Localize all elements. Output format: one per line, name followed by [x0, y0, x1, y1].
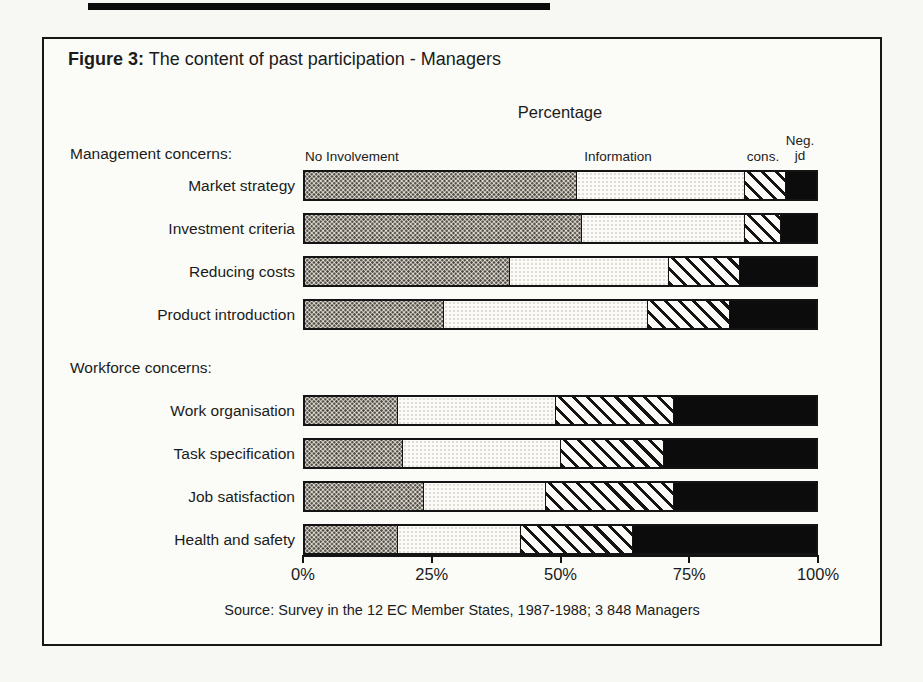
bar-segment-information	[402, 440, 560, 467]
bar-segment-no-involvement	[305, 172, 576, 199]
bar-segment-consultation	[647, 301, 729, 328]
stacked-bar	[303, 213, 818, 244]
bar-segment-information	[443, 301, 647, 328]
group-label: Management concerns:	[70, 145, 232, 163]
x-axis-tick	[431, 555, 433, 563]
bar-segment-no-involvement	[305, 483, 423, 510]
row-label: Reducing costs	[44, 263, 295, 281]
bar-segment-no-involvement	[305, 301, 443, 328]
x-axis-tick	[302, 555, 304, 563]
x-axis-tick-label: 50%	[526, 565, 596, 584]
x-axis-tick	[688, 555, 690, 563]
column-header-information: Information	[558, 149, 678, 164]
bar-segment-no-involvement	[305, 397, 397, 424]
group-label: Workforce concerns:	[70, 359, 212, 377]
row-label: Market strategy	[44, 177, 295, 195]
figure-title: Figure 3: The content of past participat…	[68, 49, 501, 70]
stacked-bar	[303, 299, 818, 330]
bar-segment-no-involvement	[305, 440, 402, 467]
stacked-bar	[303, 524, 818, 555]
x-axis-tick-label: 25%	[397, 565, 467, 584]
bar-segment-no-involvement	[305, 526, 397, 553]
bar-segment-consultation	[668, 258, 740, 285]
chart-row: Product introduction	[44, 299, 880, 330]
stacked-bar	[303, 395, 818, 426]
bar-segment-consultation	[744, 172, 785, 199]
chart-row: Work organisation	[44, 395, 880, 426]
x-axis-tick-label: 0%	[268, 565, 338, 584]
bar-segment-no-involvement	[305, 215, 581, 242]
bar-segment-consultation	[560, 440, 662, 467]
bar-segment-consultation	[545, 483, 673, 510]
figure-title-text: The content of past participation - Mana…	[149, 49, 501, 69]
figure-box: Figure 3: The content of past participat…	[42, 37, 882, 646]
scanned-page: Figure 3: The content of past participat…	[0, 0, 923, 682]
stacked-bar	[303, 170, 818, 201]
bar-segment-negotiation	[785, 172, 816, 199]
row-label: Product introduction	[44, 306, 295, 324]
row-label: Investment criteria	[44, 220, 295, 238]
chart-row: Health and safety	[44, 524, 880, 555]
bar-segment-information	[397, 397, 555, 424]
bar-segment-negotiation	[673, 397, 816, 424]
chart-row: Reducing costs	[44, 256, 880, 287]
bar-segment-negotiation	[632, 526, 816, 553]
row-label: Work organisation	[44, 402, 295, 420]
bar-segment-information	[581, 215, 745, 242]
bar-segment-consultation	[555, 397, 673, 424]
row-label: Task specification	[44, 445, 295, 463]
stacked-bar	[303, 256, 818, 287]
x-axis-tick	[817, 555, 819, 563]
bar-segment-consultation	[744, 215, 780, 242]
bar-segment-consultation	[520, 526, 632, 553]
bar-segment-negotiation	[663, 440, 816, 467]
bar-segment-no-involvement	[305, 258, 509, 285]
x-axis-tick-label: 75%	[654, 565, 724, 584]
column-header-negotiation: Neg. jd	[770, 134, 830, 163]
x-axis-tick-label: 100%	[783, 565, 853, 584]
figure-number-label: Figure 3:	[68, 49, 144, 69]
chart-row: Market strategy	[44, 170, 880, 201]
source-note: Source: Survey in the 12 EC Member State…	[44, 602, 880, 618]
chart-row: Task specification	[44, 438, 880, 469]
bar-segment-information	[576, 172, 745, 199]
bar-segment-information	[423, 483, 546, 510]
column-header-negotiation-line1: Neg.	[770, 134, 830, 149]
axis-title: Percentage	[460, 103, 660, 122]
column-header-no-involvement: No Involvement	[305, 149, 399, 164]
stacked-bar	[303, 438, 818, 469]
chart-row: Investment criteria	[44, 213, 880, 244]
bar-segment-negotiation	[780, 215, 816, 242]
row-label: Job satisfaction	[44, 488, 295, 506]
scan-artifact-bar	[88, 3, 550, 10]
bar-segment-information	[509, 258, 667, 285]
column-header-negotiation-line2: jd	[770, 149, 830, 164]
bar-segment-negotiation	[673, 483, 816, 510]
x-axis-tick	[560, 555, 562, 563]
bar-segment-negotiation	[739, 258, 816, 285]
bar-segment-negotiation	[729, 301, 816, 328]
chart-row: Job satisfaction	[44, 481, 880, 512]
bar-segment-information	[397, 526, 520, 553]
row-label: Health and safety	[44, 531, 295, 549]
stacked-bar	[303, 481, 818, 512]
